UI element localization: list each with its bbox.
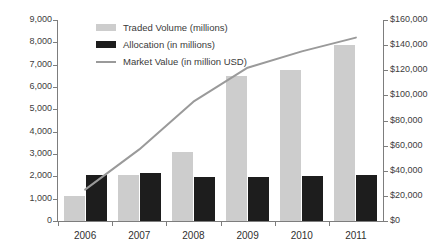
y-axis-right-tick bbox=[384, 221, 388, 222]
x-axis-tick bbox=[112, 222, 113, 226]
y-axis-right-tick-label: $160,000 bbox=[390, 15, 428, 24]
bar-traded-volume[interactable] bbox=[172, 152, 193, 221]
bar-allocation[interactable] bbox=[248, 177, 269, 221]
legend-item-label: Traded Volume (millions) bbox=[123, 23, 228, 33]
bar-traded-volume[interactable] bbox=[226, 76, 247, 221]
y-axis-left-tick-label: 9,000 bbox=[29, 15, 52, 24]
y-axis-left-tick bbox=[53, 87, 57, 88]
y-axis-left-tick bbox=[53, 221, 57, 222]
legend-line-icon bbox=[96, 61, 116, 63]
y-axis-right-tick-label: $0 bbox=[390, 216, 400, 225]
y-axis-left-tick bbox=[53, 65, 57, 66]
y-axis-left-tick-label: 2,000 bbox=[29, 171, 52, 180]
y-axis-left-tick-label: 4,000 bbox=[29, 127, 52, 136]
y-axis-right-tick bbox=[384, 121, 388, 122]
y-axis-right-tick bbox=[384, 171, 388, 172]
legend-box-icon bbox=[96, 24, 116, 31]
x-axis-tick bbox=[221, 222, 222, 226]
y-axis-right-tick-label: $80,000 bbox=[390, 116, 423, 125]
y-axis-right-tick-label: $20,000 bbox=[390, 191, 423, 200]
y-axis-right-tick-label: $140,000 bbox=[390, 40, 428, 49]
y-axis-left-tick bbox=[53, 154, 57, 155]
bar-traded-volume[interactable] bbox=[118, 175, 139, 221]
y-axis-left-tick-label: 5,000 bbox=[29, 104, 52, 113]
legend-box-icon bbox=[96, 41, 116, 48]
y-axis-left-tick-label: 3,000 bbox=[29, 149, 52, 158]
x-axis-category-label: 2007 bbox=[128, 231, 150, 241]
y-axis-left-tick-label: 0 bbox=[47, 216, 52, 225]
y-axis-right-tick bbox=[384, 20, 388, 21]
x-axis-tick bbox=[275, 222, 276, 226]
y-axis-right-tick-label: $100,000 bbox=[390, 90, 428, 99]
y-axis-left-tick bbox=[53, 199, 57, 200]
y-axis-right-tick bbox=[384, 95, 388, 96]
x-axis-category-label: 2006 bbox=[74, 231, 96, 241]
y-axis-right-tick-label: $60,000 bbox=[390, 141, 423, 150]
legend-item-label: Market Value (in million USD) bbox=[123, 57, 247, 67]
bar-allocation[interactable] bbox=[356, 175, 377, 221]
x-axis-category-label: 2011 bbox=[345, 231, 367, 241]
x-axis-category-label: 2010 bbox=[291, 231, 313, 241]
y-axis-left-tick-label: 8,000 bbox=[29, 37, 52, 46]
bar-allocation[interactable] bbox=[194, 177, 215, 221]
y-axis-right-tick-label: $40,000 bbox=[390, 166, 423, 175]
bar-allocation[interactable] bbox=[302, 176, 323, 221]
bar-allocation[interactable] bbox=[86, 175, 107, 221]
x-axis-category-label: 2008 bbox=[182, 231, 204, 241]
bar-traded-volume[interactable] bbox=[64, 196, 85, 221]
x-axis-tick bbox=[166, 222, 167, 226]
y-axis-left-tick bbox=[53, 109, 57, 110]
legend-item[interactable]: Market Value (in million USD) bbox=[96, 53, 247, 70]
y-axis-left-tick-label: 1,000 bbox=[29, 194, 52, 203]
combo-chart: 01,0002,0003,0004,0005,0006,0007,0008,00… bbox=[0, 0, 442, 252]
bar-traded-volume[interactable] bbox=[334, 45, 355, 221]
y-axis-right-tick bbox=[384, 146, 388, 147]
y-axis-left-tick-label: 6,000 bbox=[29, 82, 52, 91]
y-axis-left-tick bbox=[53, 176, 57, 177]
y-axis-right-tick bbox=[384, 45, 388, 46]
y-axis-right-tick bbox=[384, 70, 388, 71]
bar-traded-volume[interactable] bbox=[280, 70, 301, 221]
legend-item[interactable]: Allocation (in millions) bbox=[96, 36, 247, 53]
legend-item-label: Allocation (in millions) bbox=[123, 40, 215, 50]
y-axis-left-tick bbox=[53, 42, 57, 43]
y-axis-left-tick bbox=[53, 20, 57, 21]
x-axis-tick bbox=[329, 222, 330, 226]
y-axis-left-tick-label: 7,000 bbox=[29, 60, 52, 69]
y-axis-right-tick bbox=[384, 196, 388, 197]
x-axis-tick bbox=[58, 222, 59, 226]
bar-allocation[interactable] bbox=[140, 173, 161, 221]
y-axis-left-tick bbox=[53, 132, 57, 133]
y-axis-right-tick-label: $120,000 bbox=[390, 65, 428, 74]
x-axis-category-label: 2009 bbox=[236, 231, 258, 241]
chart-legend: Traded Volume (millions)Allocation (in m… bbox=[96, 19, 247, 70]
legend-item[interactable]: Traded Volume (millions) bbox=[96, 19, 247, 36]
